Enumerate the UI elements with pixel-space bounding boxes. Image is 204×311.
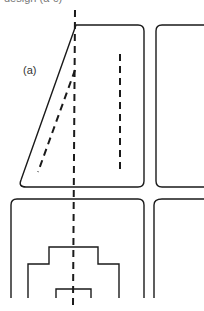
lower-left-block xyxy=(11,199,144,298)
road-layout-diagram xyxy=(0,0,204,311)
center-axis-dashed xyxy=(73,10,75,305)
lower-right-block xyxy=(154,199,204,298)
upper-right-block xyxy=(156,25,204,187)
upper-left-block xyxy=(20,25,144,187)
diagonal-dashed xyxy=(38,70,75,172)
